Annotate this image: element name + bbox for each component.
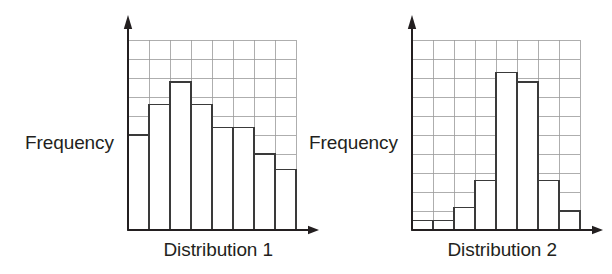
histogram-bar [475, 181, 496, 230]
histogram-bar [170, 82, 191, 230]
bars-left [128, 82, 296, 230]
histogram-bar [212, 127, 233, 230]
histogram-bar [559, 211, 580, 230]
histogram-bar [517, 82, 538, 230]
histogram-bar [433, 221, 454, 231]
plot-area-left [0, 0, 306, 274]
histogram-bar [191, 105, 212, 230]
x-axis-label-right: Distribution 2 [448, 240, 557, 259]
histogram-bar [149, 105, 170, 230]
x-axis-arrow-icon [592, 226, 603, 234]
histogram-bar [412, 221, 433, 231]
y-axis-arrow-icon [408, 15, 416, 29]
histogram-bar [538, 181, 559, 230]
histogram-bar [275, 169, 296, 230]
histogram-bar [254, 154, 275, 230]
histogram-bar [233, 127, 254, 230]
y-axis-arrow-icon [124, 15, 132, 29]
bars-right [412, 72, 580, 230]
x-axis-label-left: Distribution 1 [164, 240, 273, 259]
chart-panel-distribution-2: Frequency Distribution 2 [306, 0, 612, 274]
histogram-bar [128, 135, 149, 230]
chart-panel-distribution-1: Frequency Distribution 1 [0, 0, 306, 274]
histogram-bar [454, 207, 475, 230]
plot-area-right [306, 0, 612, 274]
histogram-bar [496, 72, 517, 230]
histogram-comparison-figure: Frequency Distribution 1 Frequency Distr… [0, 0, 612, 274]
